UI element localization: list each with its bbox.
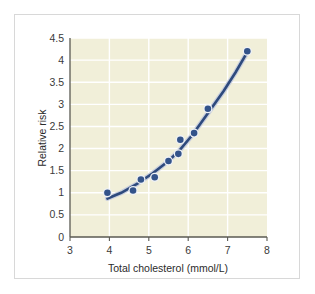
x-tick-label: 4 [106,244,112,256]
y-tick-label: 4 [58,54,64,66]
data-point [130,187,137,194]
data-point [177,136,184,143]
y-tick-label: 3 [58,98,64,110]
y-tick-label: 0 [58,231,64,243]
y-tick-label: 2.5 [49,120,64,132]
x-tick-label: 6 [185,244,191,256]
data-point [165,158,172,165]
x-tick-label: 7 [225,244,231,256]
data-point [244,48,251,55]
x-tick-label: 8 [264,244,270,256]
y-tick-label: 3.5 [49,76,64,88]
y-axis-tick-labels: 00.511.522.533.544.5 [49,32,64,243]
data-point [104,189,111,196]
x-tick-label: 3 [67,244,73,256]
data-point [138,176,145,183]
y-tick-label: 4.5 [49,32,64,44]
chart-canvas: 00.511.522.533.544.5 345678 Relative ris… [0,0,315,294]
data-point [191,130,198,137]
x-axis-tick-labels: 345678 [67,244,270,256]
data-point [205,105,212,112]
y-tick-label: 2 [58,142,64,154]
data-point [151,174,158,181]
data-point [175,151,182,158]
y-tick-label: 0.5 [49,208,64,220]
y-tick-label: 1.5 [49,164,64,176]
x-axis-title: Total cholesterol (mmol/L) [108,262,228,274]
y-tick-label: 1 [58,186,64,198]
x-tick-label: 5 [146,244,152,256]
y-axis-title: Relative risk [36,109,48,167]
